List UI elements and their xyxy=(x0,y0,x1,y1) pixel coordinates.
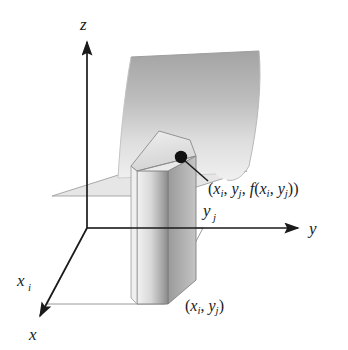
bpl-x: x xyxy=(189,297,197,314)
bpl-close-paren: ) xyxy=(219,297,224,315)
column-left-face xyxy=(131,166,137,304)
math-diagram-svg: z y x x i y j (xi, yj, f(xi, yj)) (xi, y… xyxy=(0,0,348,350)
y-subscript-base: y xyxy=(201,201,211,220)
spl-x2: x xyxy=(258,180,266,197)
surface-point-dot xyxy=(175,151,187,163)
y-subscript-index: j xyxy=(211,211,216,223)
x-axis xyxy=(40,228,87,316)
figure-root: z y x x i y j (xi, yj, f(xi, yj)) (xi, y… xyxy=(0,0,348,350)
spl-close-parens: )) xyxy=(288,180,299,198)
spl-x1: x xyxy=(212,180,220,197)
spl-comma3: , xyxy=(270,180,278,197)
svg-text:(xi, yj, f(xi, yj)): (xi, yj, f(xi, yj)) xyxy=(208,180,298,199)
x-axis-label: x xyxy=(28,325,37,344)
x-subscript-index: i xyxy=(28,281,31,293)
bpl-comma: , xyxy=(201,297,209,314)
x-subscript-label: x i xyxy=(16,271,31,293)
x-subscript-base: x xyxy=(16,271,25,290)
y-axis-label: y xyxy=(307,219,317,238)
y-subscript-label: y j xyxy=(201,201,216,223)
column-side-face xyxy=(168,156,196,304)
base-point-label: (xi, yj) xyxy=(185,297,224,316)
z-axis-label: z xyxy=(79,15,87,34)
column-front-face xyxy=(137,171,168,304)
spl-comma1: , xyxy=(224,180,232,197)
svg-text:(xi, yj): (xi, yj) xyxy=(185,297,224,316)
surface-point-label: (xi, yj, f(xi, yj)) xyxy=(208,180,298,199)
spl-comma2: , xyxy=(242,180,250,197)
